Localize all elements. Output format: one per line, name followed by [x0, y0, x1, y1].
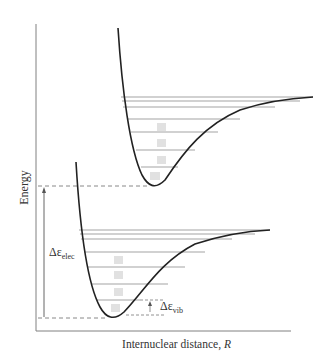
- ground-potential-curve: [76, 162, 270, 317]
- x-axis-variable: R: [224, 338, 231, 350]
- y-axis-label: Energy: [17, 158, 32, 218]
- electronic-gap-label: Δεelec: [49, 245, 75, 261]
- delta-epsilon-symbol: Δε: [49, 245, 62, 259]
- x-axis-label-text: Internuclear distance,: [122, 338, 224, 350]
- vib-subscript: vib: [173, 306, 183, 315]
- delta-epsilon-symbol: Δε: [160, 299, 173, 313]
- vibrational-gap-label: Δεvib: [160, 299, 183, 315]
- elec-subscript: elec: [62, 252, 75, 261]
- upper-vibrational-levels: [121, 97, 313, 167]
- electronic-gap-arrow: [42, 187, 46, 317]
- lower-vibrational-levels: [79, 230, 270, 300]
- x-axis-label: Internuclear distance, R: [0, 338, 323, 350]
